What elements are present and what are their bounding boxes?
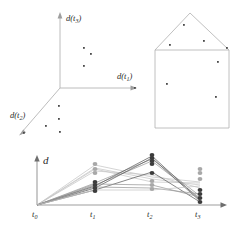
projection-point <box>166 83 168 85</box>
pc-node <box>150 183 155 187</box>
pc-node <box>198 196 203 200</box>
axis-d-t2-arrowhead <box>19 129 26 135</box>
pc-node <box>150 171 155 175</box>
scatter3d-points <box>23 47 136 134</box>
scatter-point <box>83 47 85 49</box>
pc-node <box>198 188 203 192</box>
house-points <box>166 24 228 98</box>
pc-node <box>150 179 155 183</box>
projection-point <box>203 40 205 42</box>
projection-point <box>215 96 217 98</box>
axis-d-t2-line <box>22 88 60 132</box>
pc-node <box>93 171 98 175</box>
pc-tick-labels: t0 t1 t2 t3 <box>32 209 200 220</box>
scatter-point <box>45 125 47 127</box>
figure-svg: d(t3) d(t1) d(t2) <box>0 0 243 235</box>
projection-point <box>226 47 228 49</box>
axis-d-t1-arrowhead <box>131 86 138 91</box>
tick-label-t1: t1 <box>90 209 95 220</box>
parallel-coordinates-panel: d <box>32 153 227 220</box>
axis-label-d-t2: d(t2) <box>10 110 25 121</box>
pc-node <box>93 189 98 193</box>
projection-point <box>169 44 171 46</box>
tick-label-t0: t0 <box>32 209 37 220</box>
pc-y-axis-arrowhead <box>34 155 39 162</box>
pc-node <box>198 192 203 196</box>
house-outline <box>155 13 229 128</box>
projection-point <box>183 24 185 26</box>
pc-node <box>150 162 155 166</box>
scatter-point <box>58 118 60 120</box>
pc-node <box>198 177 203 181</box>
tick-label-t2: t2 <box>147 209 152 220</box>
scatter-point <box>59 131 61 133</box>
pc-node <box>150 187 155 191</box>
axis-label-d-t1: d(t1) <box>117 71 132 82</box>
pc-node <box>198 200 203 204</box>
scatter-point <box>134 87 136 89</box>
projection-point <box>217 61 219 63</box>
pc-y-axis-label: d <box>43 154 49 166</box>
figure-canvas: d(t3) d(t1) d(t2) <box>0 0 243 235</box>
scatter-point <box>83 65 85 67</box>
scatter-point <box>23 132 25 134</box>
pc-node <box>93 167 98 171</box>
pc-node <box>198 171 203 175</box>
house-projection-panel <box>155 13 229 128</box>
scatter-point <box>90 53 92 55</box>
axis-label-d-t3: d(t3) <box>66 13 81 24</box>
axis-d-t3-arrowhead <box>58 12 63 19</box>
scatter3d-panel: d(t3) d(t1) d(t2) <box>10 12 137 136</box>
pc-trajectories <box>37 156 200 205</box>
pc-x-axis-arrowhead <box>221 202 228 207</box>
pc-node <box>93 162 98 166</box>
tick-label-t3: t3 <box>195 209 200 220</box>
pc-node <box>198 167 203 171</box>
scatter-point <box>58 105 60 107</box>
